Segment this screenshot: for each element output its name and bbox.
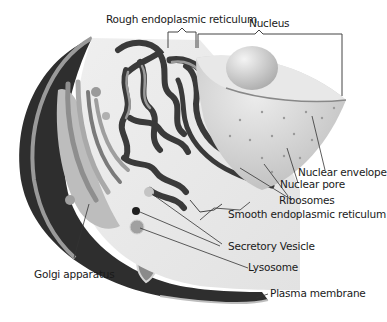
label-rough-er: Rough endoplasmic reticulum [106,13,257,25]
lysosome-shape [130,220,144,234]
label-nuclear-pore: Nuclear pore [280,178,345,190]
vesicle-dark [132,207,140,215]
label-lysosome: Lysosome [248,261,298,273]
label-secretory-vesicle: Secretory Vesicle [228,240,315,252]
label-nucleus: Nucleus [249,17,289,29]
label-ribosomes: Ribosomes [279,194,335,206]
label-golgi: Golgi apparatus [34,268,115,280]
label-nuclear-envelope: Nuclear envelope [298,166,387,178]
label-plasma-membrane: Plasma membrane [270,287,366,299]
label-smooth-er: Smooth endoplasmic reticulum [228,208,386,220]
secretory-vesicle-shape [144,187,154,197]
nucleolus [226,46,278,90]
